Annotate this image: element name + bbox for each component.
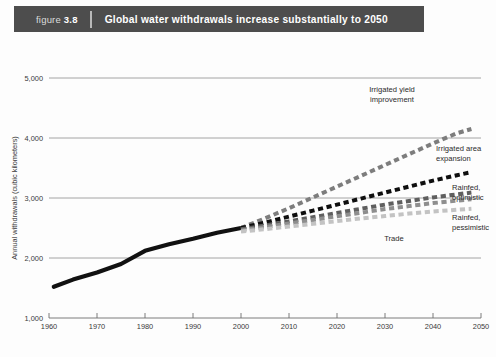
- x-tick-label-2040: 2040: [425, 322, 441, 331]
- x-tick-label-1970: 1970: [89, 322, 105, 331]
- y-tick-label-4000: 4,000: [25, 134, 44, 143]
- grid-lines-group: [49, 78, 481, 258]
- y-tick-label-3000: 3,000: [25, 194, 44, 203]
- figure-number-text: 3.8: [64, 14, 78, 25]
- annotation-rainfed-pessimistic-line2: pessimistic: [452, 223, 489, 232]
- axis-group: [49, 313, 481, 318]
- annotation-irrigated-yield-improvement: Irrigated yieldimprovement: [369, 85, 415, 104]
- x-tick-label-2010: 2010: [281, 322, 297, 331]
- line-chart: 1,0002,0003,0004,0005,000196019701980199…: [0, 40, 496, 357]
- annotation-irrigated-area-expansion: Irrigated areaexpansion: [436, 144, 482, 163]
- x-tick-label-1980: 1980: [137, 322, 153, 331]
- figure-container: figure 3.8 Global water withdrawals incr…: [0, 0, 496, 357]
- annotation-rainfed-optimistic-line2: optimistic: [452, 193, 484, 202]
- data-series-group: [54, 129, 472, 287]
- figure-number-label: figure 3.8: [36, 14, 78, 25]
- annotation-trade-line1: Trade: [384, 234, 404, 243]
- x-tick-label-1960: 1960: [41, 322, 57, 331]
- axis-labels-group: 1,0002,0003,0004,0005,000196019701980199…: [10, 74, 489, 331]
- series-line-historical: [54, 228, 241, 287]
- figure-header-banner: figure 3.8 Global water withdrawals incr…: [14, 6, 424, 32]
- annotation-rainfed-pessimistic-line1: Rainfed,: [452, 213, 480, 222]
- annotation-rainfed-pessimistic: Rainfed,pessimistic: [452, 213, 489, 232]
- annotation-irrigated-area-expansion-line1: Irrigated area: [436, 144, 482, 153]
- annotation-irrigated-yield-improvement-line2: improvement: [370, 95, 415, 104]
- banner-divider: [90, 11, 92, 28]
- y-tick-label-5000: 5,000: [25, 74, 44, 83]
- y-axis-title: Annual withdrawals (cubic kilometers): [10, 136, 19, 260]
- x-tick-label-2020: 2020: [329, 322, 345, 331]
- x-tick-label-2030: 2030: [377, 322, 393, 331]
- annotation-irrigated-yield-improvement-line1: Irrigated yield: [369, 85, 415, 94]
- annotation-irrigated-area-expansion-line2: expansion: [436, 154, 471, 163]
- chart-plot-area: 1,0002,0003,0004,0005,000196019701980199…: [0, 40, 496, 357]
- y-tick-label-2000: 2,000: [25, 254, 44, 263]
- figure-prefix-text: figure: [36, 14, 61, 25]
- x-tick-label-2000: 2000: [233, 322, 249, 331]
- figure-title: Global water withdrawals increase substa…: [105, 14, 388, 25]
- annotation-rainfed-optimistic-line1: Rainfed,: [452, 183, 480, 192]
- x-tick-label-2050: 2050: [473, 322, 489, 331]
- annotation-rainfed-optimistic: Rainfed,optimistic: [452, 183, 484, 202]
- annotation-trade: Trade: [384, 234, 404, 243]
- x-tick-label-1990: 1990: [185, 322, 201, 331]
